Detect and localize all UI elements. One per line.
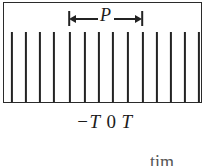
impulse-bar xyxy=(169,32,171,102)
impulse-train-figure: P −T0T tim xyxy=(0,0,210,166)
impulse-bar xyxy=(38,32,40,102)
impulse-bar xyxy=(126,32,128,102)
impulse-bar xyxy=(83,32,85,102)
impulse-bar xyxy=(183,32,185,102)
axis-label-zero: 0 xyxy=(101,111,122,132)
axis-tick-labels: −T0T xyxy=(0,110,210,136)
impulse-bar xyxy=(155,32,157,102)
impulse-bar xyxy=(52,32,54,102)
impulse-bar xyxy=(68,32,70,102)
impulse-bar xyxy=(111,32,113,102)
plot-frame: P xyxy=(3,2,202,103)
impulse-train xyxy=(4,3,201,102)
axis-label-positive-T: T xyxy=(122,111,133,132)
minus-sign: − xyxy=(77,111,89,132)
impulse-bar xyxy=(24,32,26,102)
axis-caption-text: tim xyxy=(150,152,210,166)
impulse-bar xyxy=(197,32,199,102)
axis-caption: tim xyxy=(150,152,210,166)
impulse-bar xyxy=(10,32,12,102)
impulse-bar xyxy=(141,32,143,102)
impulse-bar xyxy=(97,32,99,102)
axis-label-negative-T: T xyxy=(90,111,101,132)
